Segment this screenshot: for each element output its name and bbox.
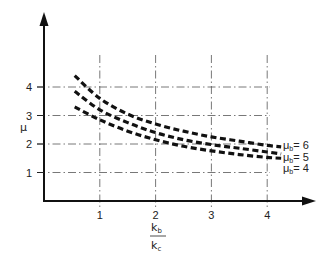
curves — [75, 76, 281, 159]
axes — [40, 12, 317, 206]
x-tick-label: 4 — [264, 209, 270, 221]
y-axis-label: μ — [20, 121, 27, 134]
y-tick-label: 4 — [26, 81, 32, 93]
y-tick-label: 1 — [26, 167, 32, 179]
x-axis-numerator: kb — [151, 221, 162, 235]
legend-label: μb= 4 — [283, 162, 309, 175]
x-tick-label: 1 — [97, 209, 103, 221]
y-tick-label: 3 — [26, 110, 32, 122]
chart: 12341234 μb= 6μb= 5μb= 4 μ kb kc — [0, 0, 327, 257]
curve-series — [75, 76, 281, 147]
x-tick-label: 2 — [153, 209, 159, 221]
y-tick-label: 2 — [26, 138, 32, 150]
legend: μb= 6μb= 5μb= 4 — [283, 139, 309, 175]
y-axis-arrow-icon — [40, 12, 49, 26]
x-axis-label: kb kc — [150, 221, 166, 253]
x-axis-denominator: kc — [151, 239, 161, 253]
x-axis-arrow-icon — [302, 197, 316, 206]
x-tick-label: 3 — [208, 209, 214, 221]
